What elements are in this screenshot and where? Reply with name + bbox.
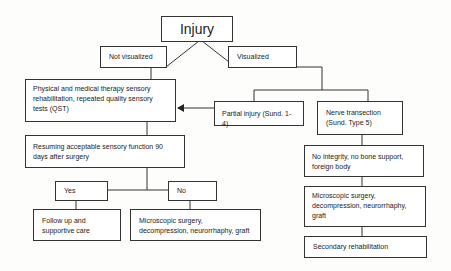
resuming-function-node: Resuming acceptable sensory function 90 … <box>25 135 185 168</box>
yes-node: Yes <box>55 181 108 201</box>
no-integrity-node: No integrity, no bone support, foreign b… <box>304 145 424 177</box>
microscopic-surgery-right-node: Microscopic surgery, decompression, neur… <box>304 186 426 227</box>
not-visualized-node: Not visualized <box>100 46 167 68</box>
partial-injury-node: Partial injury (Sund. 1-4) <box>214 101 304 126</box>
injury-node: Injury <box>161 16 233 42</box>
follow-up-node: Follow up and supportive care <box>33 209 121 241</box>
physical-therapy-node: Physical and medical therapy sensory reh… <box>25 79 176 122</box>
no-node: No <box>168 181 217 201</box>
secondary-rehabilitation-node: Secondary rehabilitation <box>304 236 427 258</box>
microscopic-surgery-left-node: Microscopic surgery, decompression, neur… <box>130 209 261 241</box>
visualized-node: Visualized <box>228 46 297 68</box>
flowchart-canvas: Injury Not visualized Visualized Physica… <box>0 0 451 271</box>
nerve-transection-node: Nerve transection (Sund. Type 5) <box>317 101 403 135</box>
